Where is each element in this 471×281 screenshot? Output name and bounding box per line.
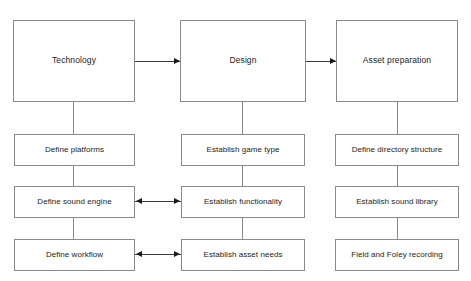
node-define-sound-engine-label: Define sound engine (34, 198, 114, 207)
arrow-right-icon-workflow-to-asset-needs (174, 251, 180, 257)
arrow-right-icon-design-to-asset-preparation (330, 58, 336, 64)
connector-design-to-establish-game-type (242, 102, 243, 134)
arrow-left-icon-workflow-to-asset-needs (136, 251, 142, 257)
node-asset-preparation-label: Asset preparation (360, 56, 434, 65)
node-establish-asset-needs-label: Establish asset needs (201, 251, 286, 260)
connector-technology-to-define-platforms (73, 102, 74, 134)
node-define-directory-structure[interactable]: Define directory structure (335, 134, 459, 166)
node-design-label: Design (226, 56, 259, 65)
node-field-and-foley-recording[interactable]: Field and Foley recording (335, 239, 459, 271)
node-establish-asset-needs[interactable]: Establish asset needs (181, 239, 305, 271)
node-design[interactable]: Design (180, 20, 306, 102)
arrow-right-icon-technology-to-design (174, 58, 180, 64)
connector-define-sound-engine-to-define-workflow (73, 218, 74, 239)
node-define-workflow-label: Define workflow (43, 251, 106, 260)
node-establish-functionality-label: Establish functionality (201, 198, 285, 207)
node-establish-sound-library[interactable]: Establish sound library (335, 186, 459, 218)
node-establish-game-type-label: Establish game type (204, 146, 283, 155)
connector-establish-game-type-to-establish-functionality (242, 166, 243, 186)
node-define-workflow[interactable]: Define workflow (14, 239, 135, 271)
connector-establish-functionality-to-establish-asset-needs (242, 218, 243, 239)
node-establish-game-type[interactable]: Establish game type (181, 134, 305, 166)
node-asset-preparation[interactable]: Asset preparation (336, 20, 458, 102)
node-establish-sound-library-label: Establish sound library (353, 198, 441, 207)
flowchart-canvas: Technology Define platforms Define sound… (0, 0, 471, 281)
connector-establish-sound-library-to-field-and-foley-recording (397, 218, 398, 239)
connector-asset-preparation-to-define-directory-structure (397, 102, 398, 134)
connector-define-platforms-to-define-sound-engine (73, 166, 74, 186)
node-establish-functionality[interactable]: Establish functionality (181, 186, 305, 218)
connector-define-directory-structure-to-establish-sound-library (397, 166, 398, 186)
node-technology-label: Technology (49, 56, 99, 65)
node-define-platforms[interactable]: Define platforms (14, 134, 135, 166)
arrow-right-icon-sound-engine-to-functionality (174, 198, 180, 204)
node-define-platforms-label: Define platforms (42, 146, 107, 155)
node-define-sound-engine[interactable]: Define sound engine (14, 186, 135, 218)
node-technology[interactable]: Technology (13, 20, 135, 102)
arrow-left-icon-sound-engine-to-functionality (136, 198, 142, 204)
node-field-and-foley-recording-label: Field and Foley recording (348, 251, 446, 260)
node-define-directory-structure-label: Define directory structure (349, 146, 446, 155)
